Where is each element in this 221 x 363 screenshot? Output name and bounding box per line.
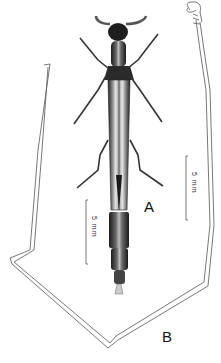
scale-bar-b: [186, 156, 188, 220]
antenna-right: [126, 16, 146, 24]
beetle-a: [74, 16, 163, 294]
leg-mid-right: [130, 76, 162, 122]
panel-label-b: B: [162, 329, 172, 344]
leg-front-left: [80, 38, 108, 68]
scale-label-a: 5 mm: [91, 216, 98, 238]
leg-front-right: [128, 34, 158, 68]
scientific-figure: [0, 0, 221, 363]
leg-mid-left: [74, 76, 106, 124]
leg-hind-right: [130, 140, 163, 186]
antenna-left: [96, 16, 110, 24]
scale-bar-a: [86, 200, 88, 264]
scale-label-b: 5 mm: [191, 172, 198, 194]
leg-hind-left: [77, 140, 108, 188]
panel-label-a: A: [144, 199, 154, 214]
